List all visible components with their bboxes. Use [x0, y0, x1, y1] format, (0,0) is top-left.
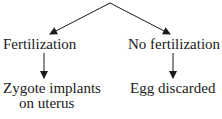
egg-discarded-label: Egg discarded [130, 81, 215, 96]
arrow-to-fertilization [50, 3, 110, 34]
fertilization-label: Fertilization [3, 37, 76, 52]
no-fertilization-label: No fertilization [128, 37, 220, 52]
on-uterus-label: on uterus [19, 96, 74, 111]
flow-diagram: Fertilization No fertilization Zygote im… [0, 0, 222, 119]
zygote-implants-label: Zygote implants [3, 81, 101, 96]
arrow-to-no-fertilization [110, 3, 170, 34]
